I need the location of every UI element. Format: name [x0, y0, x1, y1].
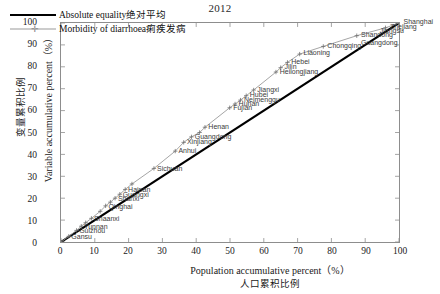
y-tick-80: 80	[28, 61, 38, 71]
legend: Absolute equality绝对平均✛Morbidity of diarr…	[10, 8, 186, 36]
x-tick-100: 100	[393, 246, 407, 256]
y-tick-90: 90	[28, 39, 38, 49]
y-tick-40: 40	[28, 150, 38, 160]
lorenz-curve-figure: 2012 Variable accumulative percent（%） 变量…	[0, 0, 440, 294]
point-label-chongqing: Chongqing	[327, 42, 361, 49]
point-label-yunnan: Yunnan	[84, 223, 108, 230]
legend-marker-icon: ✛	[31, 26, 39, 32]
point-label-sichuan: Sichuan	[157, 165, 182, 172]
plot-area: GansuGuizhouYunnanShaanxiQinghaiShanxiGu…	[60, 22, 400, 243]
x-tick-70: 70	[293, 246, 303, 256]
x-axis-label-cn: 人口累积比例	[120, 276, 420, 290]
y-tick-20: 20	[28, 194, 38, 204]
y-tick-0: 0	[32, 238, 37, 248]
y-tick-60: 60	[28, 105, 38, 115]
legend-swatch-icon: ✛	[10, 24, 56, 34]
data-point-marker	[321, 44, 325, 48]
x-tick-90: 90	[361, 246, 371, 256]
legend-label: Morbidity of diarrhoea痢疾发病	[59, 22, 186, 36]
legend-item-0[interactable]: Absolute equality绝对平均	[10, 8, 186, 22]
point-label-guangdong: Guangdong	[195, 133, 232, 140]
x-tick-20: 20	[123, 246, 133, 256]
point-label-hebei: Hebei	[291, 58, 309, 65]
point-label-hainan: Hainan	[128, 186, 150, 193]
x-axis-label-en: Population accumulative percent（%）	[120, 262, 420, 277]
x-tick-60: 60	[259, 246, 269, 256]
point-label-shanghai: Shanghai	[404, 18, 434, 25]
point-label-jiangxi: Jiangxi	[257, 86, 279, 93]
data-point-marker	[355, 34, 359, 38]
y-tick-30: 30	[28, 172, 38, 182]
legend-label: Absolute equality绝对平均	[59, 8, 166, 22]
point-label-shaanxi: Shaanxi	[94, 215, 119, 222]
point-label-gansu: Gansu	[71, 233, 92, 240]
x-tick-50: 50	[225, 246, 235, 256]
point-label-anhui: Anhui	[178, 147, 196, 154]
y-tick-70: 70	[28, 83, 38, 93]
legend-swatch-icon	[10, 10, 56, 20]
x-tick-40: 40	[191, 246, 201, 256]
point-label-guangdong: Guangdong	[361, 39, 398, 46]
legend-item-1[interactable]: ✛Morbidity of diarrhoea痢疾发病	[10, 22, 186, 36]
x-tick-80: 80	[327, 246, 337, 256]
x-tick-30: 30	[157, 246, 167, 256]
point-label-qinghai: Qinghai	[108, 203, 132, 210]
point-label-henan: Henan	[208, 123, 229, 130]
y-tick-10: 10	[28, 216, 38, 226]
x-tick-0: 0	[58, 246, 63, 256]
y-tick-50: 50	[28, 128, 38, 138]
point-label-liaoning: Liaoning	[304, 49, 330, 56]
x-tick-10: 10	[89, 246, 99, 256]
